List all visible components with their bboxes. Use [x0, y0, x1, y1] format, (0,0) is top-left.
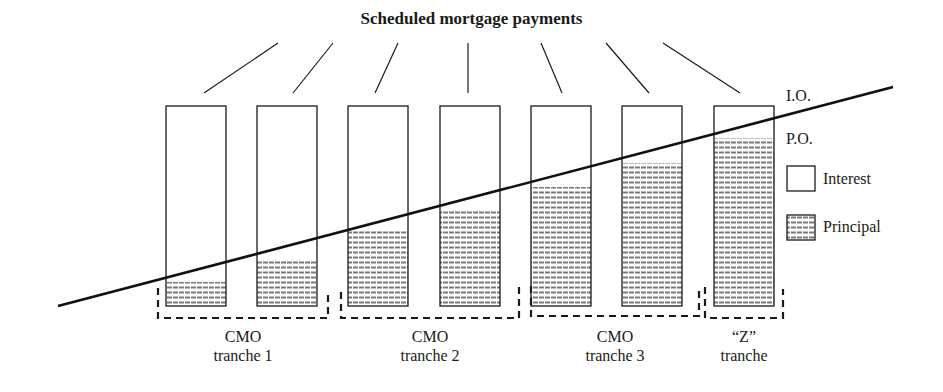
- po-label: P.O.: [786, 130, 813, 148]
- group-label-line1: CMO: [183, 327, 303, 346]
- group-label-line2: tranche: [704, 346, 784, 365]
- legend-interest-label: Interest: [823, 170, 871, 188]
- group-label-tranche-2: CMO tranche 2: [370, 327, 490, 365]
- group-label-line1: “Z”: [704, 327, 784, 346]
- group-label-z-tranche: “Z” tranche: [704, 327, 784, 365]
- bar-4: [440, 106, 500, 306]
- group-label-line1: CMO: [370, 327, 490, 346]
- group-label-line2: tranche 1: [183, 346, 303, 365]
- group-label-tranche-3: CMO tranche 3: [555, 327, 675, 365]
- group-label-tranche-1: CMO tranche 1: [183, 327, 303, 365]
- bar-2: [257, 106, 317, 306]
- legend-principal-swatch: [787, 215, 815, 240]
- bar-3: [348, 106, 408, 306]
- bar-7: [714, 106, 774, 306]
- payment-bars: [166, 106, 774, 306]
- fan-lines: [204, 43, 740, 93]
- io-label: I.O.: [786, 87, 811, 105]
- legend-principal-label: Principal: [823, 218, 881, 236]
- group-label-line1: CMO: [555, 327, 675, 346]
- group-label-line2: tranche 2: [370, 346, 490, 365]
- bar-6: [622, 106, 682, 306]
- group-label-line2: tranche 3: [555, 346, 675, 365]
- legend-interest-swatch: [787, 166, 815, 191]
- bar-5: [531, 106, 591, 306]
